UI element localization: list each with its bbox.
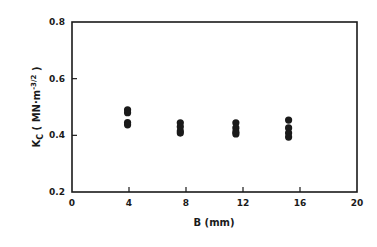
data-point — [285, 133, 292, 140]
x-tick-label: 12 — [237, 198, 250, 208]
x-tick-label: 20 — [351, 198, 364, 208]
y-tick-label: 0.2 — [49, 187, 65, 197]
data-point — [177, 129, 184, 136]
plot-frame — [72, 22, 357, 192]
y-axis-ticks: 0.20.40.60.8 — [49, 17, 77, 197]
x-axis-ticks: 048121620 — [69, 187, 363, 208]
data-point — [232, 130, 239, 137]
y-tick-label: 0.4 — [49, 130, 65, 140]
scatter-chart: 048121620 0.20.40.60.8 B (mm) KC ( MN·m-… — [0, 0, 377, 247]
x-tick-label: 4 — [126, 198, 132, 208]
y-axis-title-units: ( MN·m — [31, 90, 42, 134]
x-tick-label: 0 — [69, 198, 75, 208]
y-axis-title-close: ) — [31, 67, 42, 75]
y-axis-title-sup: -3/2 — [30, 74, 38, 89]
x-axis-title: B (mm) — [193, 217, 234, 228]
y-tick-label: 0.8 — [49, 17, 65, 27]
data-point — [124, 121, 131, 128]
data-points — [124, 106, 292, 140]
y-tick-label: 0.6 — [49, 74, 65, 84]
data-point — [124, 109, 131, 116]
y-axis-title: KC ( MN·m-3/2 ) — [30, 67, 45, 148]
x-tick-label: 16 — [294, 198, 307, 208]
x-tick-label: 8 — [183, 198, 189, 208]
data-point — [285, 116, 292, 123]
